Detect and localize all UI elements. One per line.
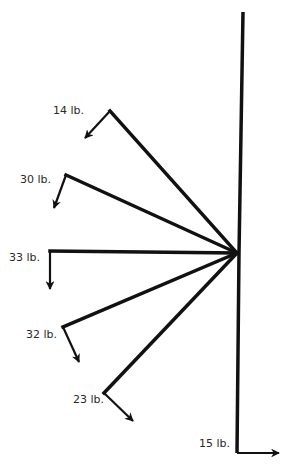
- force-label: 14 lb.: [53, 104, 84, 117]
- force-label: 30 lb.: [20, 173, 51, 186]
- force-arm-line: [104, 253, 237, 393]
- vertical-post-line: [237, 12, 243, 453]
- force-arm-line: [110, 111, 237, 253]
- arrow-icon: [63, 327, 79, 362]
- arrow-icon: [85, 111, 110, 138]
- force-label: 23 lb.: [73, 393, 104, 406]
- force-diagram: 14 lb.30 lb.33 lb.32 lb.23 lb.15 lb.: [0, 0, 288, 464]
- force-arm-line: [50, 251, 237, 253]
- force-arm-line: [63, 253, 237, 327]
- force-label: 15 lb.: [199, 437, 230, 450]
- force-arm-line: [66, 175, 237, 253]
- force-label: 33 lb.: [9, 251, 40, 264]
- arrow-icon: [54, 175, 66, 208]
- force-label: 32 lb.: [26, 328, 57, 341]
- arrow-icon: [104, 393, 133, 421]
- force-vectors-drawing: [0, 0, 288, 464]
